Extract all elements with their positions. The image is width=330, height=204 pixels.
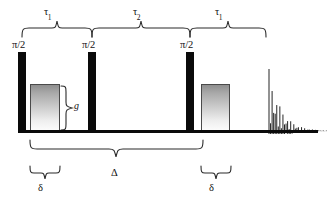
rf-pulse-2 <box>88 52 96 131</box>
tau-subscript: 2 <box>137 13 141 22</box>
bottom-brace-delta-group <box>0 138 330 162</box>
fid-signal-svg <box>262 60 330 134</box>
rf-pulse-3 <box>186 52 194 131</box>
interval-label-tau2: τ2 <box>133 7 141 20</box>
interval-label-tau1-first: τ1 <box>44 7 52 20</box>
gradient-pulse-1 <box>30 84 60 131</box>
rf-pulse-label-2: π/2 <box>82 40 95 51</box>
gradient-pulse-2 <box>201 84 230 131</box>
pulse-sequence-figure: τ1 τ2 τ1 π/2 π/2 π/2 g <box>0 0 330 204</box>
gradient-amplitude-label: g <box>74 101 79 111</box>
rf-pulse-label-3: π/2 <box>180 40 193 51</box>
tau-subscript: 1 <box>48 13 52 22</box>
interval-label-delta-left: δ <box>38 183 43 194</box>
rf-pulse-label-1: π/2 <box>12 40 25 51</box>
big-delta-brace-svg <box>0 138 330 162</box>
timeline-baseline <box>18 130 318 133</box>
small-delta-braces-svg <box>0 164 330 184</box>
tau-subscript: 1 <box>219 13 223 22</box>
interval-label-tau1-second: τ1 <box>215 7 223 20</box>
bottom-brace-delta-small-group <box>0 164 330 184</box>
fid-signal <box>262 60 330 134</box>
interval-label-delta-right: δ <box>209 183 214 194</box>
rf-pulse-1 <box>18 52 26 131</box>
